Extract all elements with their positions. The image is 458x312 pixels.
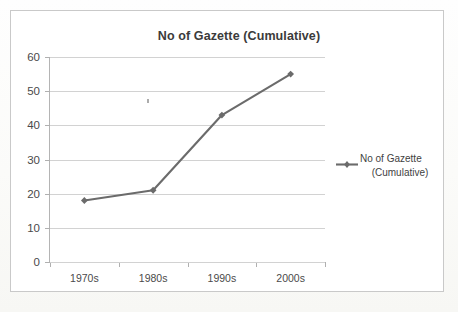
data-point-marker [81, 197, 88, 204]
series-line-no-of-gazette-cumulative [50, 57, 325, 262]
y-axis-tick-label: 40 [12, 119, 40, 131]
y-axis-tick-label: 30 [12, 154, 40, 166]
legend-label-line-1: No of Gazette [360, 153, 422, 164]
y-axis-tick-label: 10 [12, 222, 40, 234]
y-axis-tick-label: 0 [12, 256, 40, 268]
y-axis-tick-label: 60 [12, 51, 40, 63]
x-axis-tick-mark [325, 262, 326, 267]
series-polyline [84, 74, 290, 200]
x-axis-tick-label: 2000s [256, 272, 326, 284]
y-axis-tick-label: 50 [12, 85, 40, 97]
x-axis-tick-label: 1990s [187, 272, 257, 284]
legend-marker-icon [336, 160, 358, 169]
scanned-page-background: No of Gazette (Cumulative) 0102030405060… [0, 0, 458, 312]
plot-area [50, 57, 325, 262]
chart-title: No of Gazette (Cumulative) [71, 29, 407, 43]
scan-artifact-speck [147, 99, 149, 103]
y-axis-tick-label: 20 [12, 188, 40, 200]
x-axis-tick-label: 1980s [118, 272, 188, 284]
legend-label: No of Gazette (Cumulative) [360, 152, 440, 180]
legend-label-line-2: (Cumulative) [360, 166, 440, 180]
gridline [50, 262, 325, 263]
x-axis-tick-label: 1970s [49, 272, 119, 284]
